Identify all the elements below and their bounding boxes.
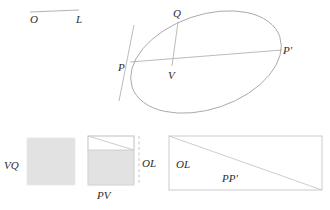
label-p-prime: P' [282,44,293,56]
rect-vq-group: VQ [4,138,75,185]
segment-ol-group: O L [30,10,82,25]
label-v: V [168,69,176,81]
ordinate-qv [172,22,178,66]
label-l: L [75,13,82,25]
label-p: P [117,61,125,73]
rect-pv-body [88,150,134,185]
label-pp-prime: PP' [221,172,238,184]
label-o: O [30,13,38,25]
label-vq: VQ [4,159,19,171]
geometry-figure: O L P P' Q V VQ OL PV [0,0,330,210]
label-q: Q [173,7,181,19]
rect-ppprime-group: OL PP' [169,136,322,190]
label-ol-right: OL [176,158,190,170]
conic-group: P P' Q V [117,0,295,132]
rect-pv-group: OL PV [88,136,156,201]
chord-p-pprime [130,50,282,62]
rect-vq-shape [27,138,75,185]
label-pv: PV [96,189,112,201]
label-ol-middle: OL [142,157,156,169]
segment-ol-line [30,10,79,12]
ellipse-outline [117,0,295,132]
